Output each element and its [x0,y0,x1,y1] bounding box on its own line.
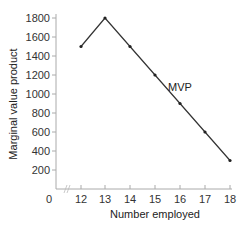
y-tick-label: 1000 [26,88,50,100]
y-tick-label: 1400 [26,50,50,62]
y-axis-label: Marginal value product [7,48,19,159]
x-tick-label: 13 [99,193,111,205]
data-point-marker [203,130,206,133]
data-point-marker [79,45,82,48]
data-point-marker [103,16,106,19]
y-tick-label: 800 [32,107,50,119]
x-tick-label: 15 [149,193,161,205]
y-tick-label: 200 [32,164,50,176]
y-tick-label: 1800 [26,12,50,24]
x-tick-label: 0 [46,193,52,205]
x-axis-label: Number employed [110,208,200,220]
mvp-series [79,16,231,162]
y-tick-label: 600 [32,126,50,138]
data-point-marker [128,45,131,48]
x-tick-label: 12 [75,193,87,205]
x-tick-label: 18 [224,193,236,205]
y-tick-label: 1600 [26,31,50,43]
y-tick-label: 400 [32,145,50,157]
series-label-mvp: MVP [168,81,192,93]
data-point-marker [178,102,181,105]
x-tick-label: 17 [199,193,211,205]
y-tick-label: 1200 [26,69,50,81]
data-point-marker [153,73,156,76]
data-point-marker [228,159,231,162]
x-axis: 012131415161718 [46,185,236,205]
x-tick-label: 14 [124,193,136,205]
mvp-line-chart: 20040060080010001200140016001800 0121314… [0,0,249,230]
y-axis: 20040060080010001200140016001800 [26,12,56,189]
x-tick-label: 16 [174,193,186,205]
